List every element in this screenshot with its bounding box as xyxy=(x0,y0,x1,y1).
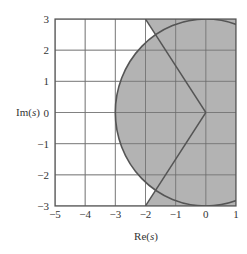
x-tick-label: 1 xyxy=(233,208,239,220)
s-plane-chart: −5−4−3−2−101 3210−1−2−3 Re(s) Im(s) xyxy=(0,0,247,254)
y-tick-label: 2 xyxy=(44,44,50,56)
y-tick-label: −3 xyxy=(37,200,49,212)
x-tick-labels: −5−4−3−2−101 xyxy=(49,208,239,220)
y-axis-label: Im(s) xyxy=(16,106,40,119)
x-tick-label: −5 xyxy=(49,208,61,220)
x-tick-label: −3 xyxy=(109,208,121,220)
x-tick-label: −1 xyxy=(170,208,182,220)
x-tick-label: −2 xyxy=(140,208,152,220)
x-axis-label: Re(s) xyxy=(134,230,158,243)
y-tick-label: 3 xyxy=(44,13,50,25)
y-tick-label: 0 xyxy=(44,107,50,119)
y-tick-label: 1 xyxy=(44,75,50,87)
x-tick-label: −4 xyxy=(79,208,91,220)
y-tick-label: −2 xyxy=(37,169,49,181)
plot-area xyxy=(55,17,247,208)
x-tick-label: 0 xyxy=(203,208,209,220)
y-tick-label: −1 xyxy=(37,138,49,150)
